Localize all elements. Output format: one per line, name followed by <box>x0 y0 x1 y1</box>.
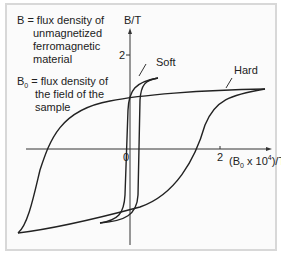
x-label-mid: x 10 <box>244 155 268 167</box>
y-axis-arrow-icon <box>128 28 132 34</box>
origin-label: 0 <box>123 151 129 164</box>
x-tick-label: 2 <box>217 151 223 164</box>
y-tick-label: 2 <box>119 49 125 62</box>
legend-b-line2: unmagnetized <box>33 27 102 40</box>
legend-b-line3: ferromagnetic <box>33 40 100 53</box>
x-label-post: )/T <box>272 155 281 167</box>
hysteresis-diagram: B = flux density of unmagnetized ferroma… <box>0 0 281 257</box>
legend-b0-line2: the field of the <box>35 88 104 101</box>
legend-b-line1: B = flux density of <box>17 14 104 27</box>
b0-definition: = flux density of <box>28 75 108 87</box>
x-label-pre: (B <box>229 155 240 167</box>
soft-pointer <box>139 64 146 76</box>
legend-b-line4: material <box>33 53 72 66</box>
soft-label: Soft <box>156 56 176 69</box>
y-axis-label: B/T <box>124 14 141 27</box>
legend-b0-line3: sample <box>35 101 70 114</box>
hard-label: Hard <box>234 64 258 77</box>
x-axis-label: (B0 x 104)/T <box>229 151 281 172</box>
hard-pointer <box>226 78 232 88</box>
